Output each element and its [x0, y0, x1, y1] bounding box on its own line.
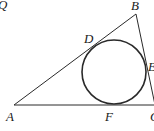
label-b: B	[131, 0, 139, 13]
label-d: D	[83, 31, 94, 46]
label-e: E	[147, 59, 154, 74]
label-c: C	[150, 109, 154, 124]
incircle	[82, 40, 146, 104]
label-q: Q	[0, 0, 8, 12]
triangle-incircle-diagram: Q B D E A F C	[0, 0, 154, 131]
side-ab	[14, 14, 136, 105]
label-f: F	[104, 109, 114, 124]
label-a: A	[5, 109, 14, 124]
